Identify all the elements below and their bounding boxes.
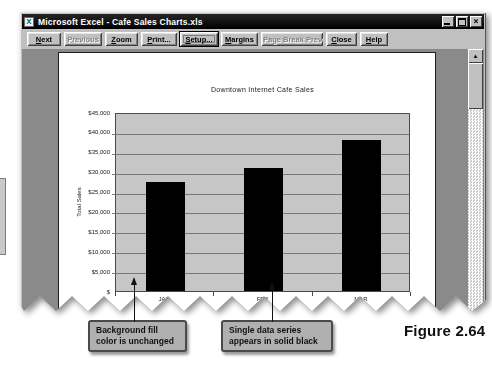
preview-area: Downtown Internet Cafe Sales Total Sales…	[22, 49, 484, 314]
callout-background-fill: Background fill color is unchanged	[88, 320, 187, 352]
scrollbar-track[interactable]	[468, 109, 483, 314]
print-preview-toolbar: NextPreviousZoomPrint...Setup...MarginsP…	[22, 29, 484, 49]
toolbar-button-margins[interactable]: Margins	[221, 32, 258, 46]
vertical-scrollbar: ▲	[468, 49, 483, 314]
gridline	[112, 134, 409, 135]
y-axis-tick-label: $5,000	[59, 269, 110, 275]
minimize-icon[interactable]	[442, 16, 454, 27]
y-axis-tick-label: $	[59, 289, 110, 295]
page-edge-fragment	[0, 178, 6, 255]
preview-page: Downtown Internet Cafe Sales Total Sales…	[58, 52, 436, 314]
chart-title: Downtown Internet Cafe Sales	[115, 86, 410, 93]
toolbar-button-previous: Previous	[64, 32, 102, 46]
sales-chart: Downtown Internet Cafe Sales Total Sales…	[59, 53, 435, 314]
toolbar-button-close[interactable]: Close	[326, 32, 357, 46]
y-axis-tick-label: $15,000	[59, 229, 110, 235]
y-axis-tick-label: $25,000	[59, 189, 110, 195]
title-bar: X Microsoft Excel - Cafe Sales Charts.xl…	[22, 14, 484, 29]
toolbar-button-page-break-preview: Page Break Preview	[261, 32, 323, 46]
bar-feb	[244, 168, 283, 291]
y-axis-tick-label: $35,000	[59, 149, 110, 155]
y-axis-tick-label: $20,000	[59, 209, 110, 215]
figure-label: Figure 2.64	[404, 322, 485, 339]
toolbar-button-zoom[interactable]: Zoom	[105, 32, 138, 46]
x-axis-label-mar: MAR	[331, 296, 391, 302]
scrollbar-thumb[interactable]	[468, 63, 483, 109]
window-title: Microsoft Excel - Cafe Sales Charts.xls	[38, 17, 442, 27]
x-axis-label-feb: FEB	[233, 296, 293, 302]
callout-arrow-data-series	[272, 284, 273, 322]
toolbar-button-help[interactable]: Help	[360, 32, 388, 46]
y-axis-tick-label: $10,000	[59, 249, 110, 255]
y-axis-tick-label: $45,000	[59, 110, 110, 116]
toolbar-button-setup[interactable]: Setup...	[180, 32, 218, 46]
callout-data-series: Single data series appears in solid blac…	[221, 320, 333, 352]
toolbar-button-print[interactable]: Print...	[141, 32, 177, 46]
excel-print-preview-window: X Microsoft Excel - Cafe Sales Charts.xl…	[20, 12, 486, 314]
plot-area	[115, 113, 410, 292]
close-icon[interactable]	[470, 16, 482, 27]
y-axis-tick-label: $30,000	[59, 169, 110, 175]
bar-mar	[342, 140, 381, 291]
callout-arrow-background-fill	[134, 279, 135, 322]
x-axis-label-jan: JAN	[134, 296, 194, 302]
restore-icon[interactable]	[456, 16, 468, 27]
bar-jan	[146, 182, 185, 291]
x-axis-tick	[410, 292, 411, 296]
toolbar-button-next[interactable]: Next	[27, 32, 61, 46]
excel-icon: X	[24, 17, 34, 27]
scroll-up-icon[interactable]: ▲	[468, 49, 483, 63]
x-axis-tick	[213, 292, 214, 296]
y-axis-tick-label: $40,000	[59, 129, 110, 135]
x-axis-tick	[115, 292, 116, 296]
x-axis-tick	[312, 292, 313, 296]
